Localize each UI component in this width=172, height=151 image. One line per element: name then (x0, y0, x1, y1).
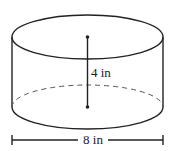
bottom-front-arc (12, 107, 163, 129)
cylinder-diagram: 4 in 8 in (0, 0, 172, 151)
diameter-label: 8 in (83, 132, 103, 147)
height-bottom-dot (86, 105, 90, 109)
height-label: 4 in (91, 65, 111, 80)
height-top-dot (86, 35, 90, 39)
